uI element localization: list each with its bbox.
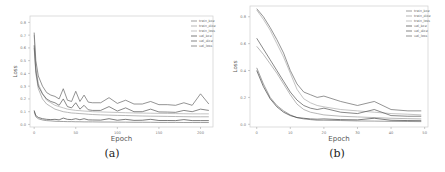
legend-entry: val_loss [414,34,428,38]
y-tick-label: 0.0 [240,123,246,127]
y-tick-label: 0.3 [20,85,26,89]
x-tick-label: 30 [355,131,360,135]
plot-area [250,6,428,127]
chart-panel-a: 0.00.10.20.30.40.50.60.70.8050100150200E… [0,0,225,172]
x-tick-label: 50 [73,131,78,135]
y-tick-label: 0.1 [20,110,26,114]
y-tick-label: 0.5 [20,59,26,63]
x-tick-label: 0 [33,131,36,135]
x-tick-label: 200 [197,131,205,135]
x-tick-label: 50 [422,131,427,135]
x-tick-label: 150 [156,131,164,135]
legend-entry: train_dice [414,14,431,18]
legend-entry: val_dice [199,39,213,43]
x-tick-label: 0 [256,131,259,135]
y-tick-label: 0.7 [20,34,26,38]
y-tick-label: 0.4 [240,69,246,73]
caption-b: (b) [317,147,357,160]
y-tick-label: 0.2 [20,97,26,101]
legend-entry: train_bce [199,19,215,23]
legend-entry: val_bce [199,34,212,38]
caption-a: (a) [92,147,132,160]
x-tick-label: 100 [114,131,122,135]
x-axis-label: Epoch [328,135,349,143]
legend-entry: train_loss [414,19,430,23]
y-tick-label: 0.0 [20,123,26,127]
legend-entry: val_bce [414,24,427,28]
y-tick-label: 0.8 [240,15,246,19]
x-axis-label: Epoch [111,135,132,143]
y-axis-label: Loss [232,60,238,72]
x-tick-label: 40 [389,131,394,135]
legend-entry: val_dice [414,29,428,33]
legend-entry: train_bce [414,9,430,13]
y-tick-label: 0.2 [240,96,246,100]
x-tick-label: 20 [322,131,327,135]
y-tick-label: 0.6 [240,42,246,46]
chart-panel-b: 0.00.20.40.60.801020304050EpochLosstrain… [225,0,445,172]
x-tick-label: 10 [288,131,293,135]
y-tick-label: 0.8 [20,21,26,25]
legend-entry: val_loss [199,44,213,48]
y-tick-label: 0.6 [20,46,26,50]
legend-entry: train_loss [199,29,215,33]
y-tick-label: 0.4 [20,72,26,76]
y-axis-label: Loss [12,65,18,77]
legend-entry: train_dice [199,24,216,28]
